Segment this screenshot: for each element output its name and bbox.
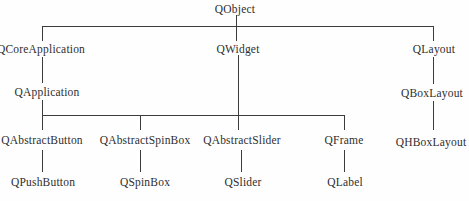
edge-line-to-qabstractspinbox: [140, 115, 141, 130]
node-qabstractslider: QAbstractSlider: [203, 134, 281, 146]
node-qslider: QSlider: [224, 176, 261, 188]
node-qframe: QFrame: [325, 134, 364, 146]
node-qspinbox: QSpinBox: [120, 176, 170, 188]
node-qboxlayout: QBoxLayout: [401, 87, 463, 99]
edge-line-widget-bus: [42, 115, 345, 116]
edge-line-to-qframe: [344, 115, 345, 130]
edge-line-qobject-drop: [236, 15, 237, 41]
edge-line-to-qhboxlayout: [433, 101, 434, 130]
node-qobject: QObject: [215, 3, 255, 15]
node-qhboxlayout: QHBoxLayout: [396, 136, 467, 148]
edge-line-to-qcoreapplication: [42, 26, 43, 41]
edge-line-to-qspinbox: [140, 150, 141, 172]
edge-line-to-qslider: [241, 150, 242, 172]
inheritance-tree-diagram: QObject QCoreApplication QWidget QLayout…: [0, 0, 469, 201]
node-qabstractbutton: QAbstractButton: [1, 134, 83, 146]
edge-line-to-qapplication: [42, 57, 43, 83]
edge-line-to-qpushbutton: [42, 150, 43, 172]
edge-line-to-qabstractbutton: [42, 115, 43, 130]
edge-line-to-qlabel: [344, 150, 345, 172]
node-qabstractspinbox: QAbstractSpinBox: [100, 134, 191, 146]
edge-line-to-qlayout: [433, 26, 434, 41]
node-qlabel: QLabel: [327, 176, 363, 188]
edge-line-to-qboxlayout: [433, 57, 434, 84]
edge-line-top-bus: [42, 26, 434, 27]
edge-line-qapplication-drop: [42, 100, 43, 115]
node-qlayout: QLayout: [413, 43, 455, 55]
node-qwidget: QWidget: [216, 43, 259, 55]
node-qapplication: QApplication: [15, 86, 80, 98]
node-qpushbutton: QPushButton: [11, 176, 75, 188]
edge-line-qwidget-drop: [238, 55, 239, 130]
node-qcoreapplication: QCoreApplication: [0, 43, 85, 55]
